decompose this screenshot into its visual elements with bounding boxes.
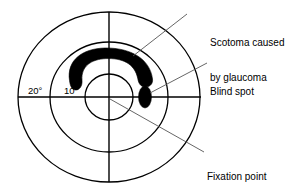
scotoma-shape [69,48,152,90]
annotation-fixation-point-line-1: Fixation point [207,171,266,183]
annotation-label-blind-spot: Blind spot [210,63,254,121]
scotoma-leader-line [133,14,187,56]
ring-label-20-degrees: 20° [28,86,42,96]
fixation-point-leader-line [110,99,204,152]
ring-label-10-degrees: 10° [64,86,78,96]
blind-spot-shape [139,86,152,108]
annotation-label-fixation-point: Fixation point [207,148,266,186]
annotation-blind-spot-line-1: Blind spot [210,86,254,98]
visual-field-diagram: 20° 10° Scotoma caused by glaucoma Blind… [0,0,298,186]
annotation-scotoma-line-1: Scotoma caused [210,37,285,49]
